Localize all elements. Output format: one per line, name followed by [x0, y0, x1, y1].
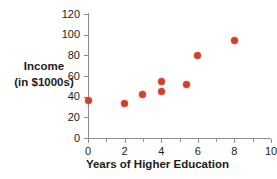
x-minor-tick — [143, 139, 144, 142]
data-point — [158, 78, 165, 85]
x-tick-label: 8 — [222, 145, 246, 157]
y-tick-label: 20 — [48, 112, 80, 123]
data-point — [139, 91, 146, 98]
scatter-chart: Income (in $1000s) Years of Higher Educa… — [0, 0, 277, 179]
data-point — [121, 100, 128, 107]
y-axis-line — [88, 13, 89, 139]
y-tick — [84, 14, 88, 15]
y-tick — [84, 76, 88, 77]
x-minor-tick — [216, 139, 217, 142]
y-tick — [84, 55, 88, 56]
y-tick-label: 100 — [48, 29, 80, 40]
x-tick — [88, 139, 89, 143]
x-tick — [198, 139, 199, 143]
x-tick-label: 0 — [76, 145, 100, 157]
y-tick-label: 120 — [48, 9, 80, 20]
y-tick — [84, 117, 88, 118]
x-tick — [234, 139, 235, 143]
data-point — [158, 88, 165, 95]
x-tick-label: 10 — [259, 145, 277, 157]
x-minor-tick — [180, 139, 181, 142]
x-axis-title: Years of Higher Education — [0, 158, 277, 170]
y-tick-label: 80 — [48, 50, 80, 61]
data-point — [85, 97, 92, 104]
y-tick — [84, 35, 88, 36]
x-tick-label: 2 — [113, 145, 137, 157]
data-point — [231, 37, 238, 44]
x-tick-label: 4 — [149, 145, 173, 157]
x-tick — [271, 139, 272, 143]
y-tick-label: 60 — [48, 71, 80, 82]
y-tick-label: 40 — [48, 91, 80, 102]
y-tick-label: 0 — [48, 133, 80, 144]
x-tick — [161, 139, 162, 143]
x-minor-tick — [106, 139, 107, 142]
x-tick — [125, 139, 126, 143]
data-point — [183, 81, 190, 88]
x-minor-tick — [253, 139, 254, 142]
x-tick-label: 6 — [186, 145, 210, 157]
data-point — [194, 52, 201, 59]
